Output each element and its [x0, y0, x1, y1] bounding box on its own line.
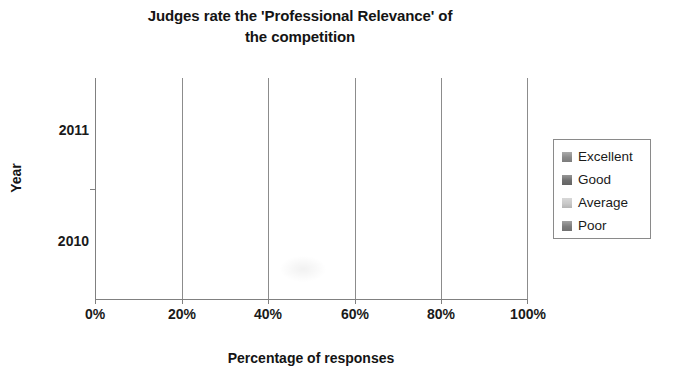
legend-swatch-good: [562, 175, 572, 185]
x-axis-tick-80: [441, 299, 442, 304]
legend-item-excellent[interactable]: Excellent: [562, 146, 650, 168]
gridline-80: [441, 78, 442, 300]
x-tick-label-0: 0%: [60, 306, 130, 322]
x-axis-tick-100: [527, 299, 528, 304]
y-tick-label-2011: 2011: [29, 122, 89, 138]
chart-title: Judges rate the 'Professional Relevance'…: [60, 6, 540, 47]
legend-swatch-excellent: [562, 152, 572, 162]
x-tick-label-100: 100%: [493, 306, 563, 322]
x-tick-label-80: 80%: [406, 306, 476, 322]
legend-label-average: Average: [578, 196, 628, 210]
chart-title-line-1: Judges rate the 'Professional Relevance'…: [148, 7, 453, 24]
x-axis-tick-20: [182, 299, 183, 304]
plot-area: [95, 78, 527, 300]
x-axis-title: Percentage of responses: [95, 350, 527, 366]
chart-legend: Excellent Good Average Poor: [553, 139, 651, 239]
legend-label-good: Good: [578, 173, 611, 187]
gridline-60: [355, 78, 356, 300]
scan-artifact: [280, 256, 326, 282]
x-axis-tick-0: [95, 299, 96, 304]
gridline-100: [527, 78, 528, 300]
legend-label-excellent: Excellent: [578, 150, 633, 164]
x-axis-line: [95, 299, 528, 300]
x-tick-label-40: 40%: [233, 306, 303, 322]
x-axis-tick-40: [268, 299, 269, 304]
y-axis-tick-labels: 2011 2010: [25, 78, 89, 300]
legend-item-average[interactable]: Average: [562, 192, 650, 214]
x-tick-label-20: 20%: [147, 306, 217, 322]
x-tick-label-60: 60%: [320, 306, 390, 322]
y-axis-tick-separator: [90, 189, 95, 190]
y-axis-title: Year: [8, 138, 24, 218]
y-axis-line: [95, 78, 96, 300]
legend-item-poor[interactable]: Poor: [562, 215, 650, 237]
legend-swatch-poor: [562, 221, 572, 231]
x-axis-tick-60: [355, 299, 356, 304]
legend-swatch-average: [562, 198, 572, 208]
y-tick-label-2010: 2010: [29, 233, 89, 249]
chart-title-line-2: the competition: [245, 28, 355, 45]
gridline-40: [268, 78, 269, 300]
legend-label-poor: Poor: [578, 219, 607, 233]
gridline-20: [182, 78, 183, 300]
legend-item-good[interactable]: Good: [562, 169, 650, 191]
chart-container: Judges rate the 'Professional Relevance'…: [0, 0, 679, 384]
